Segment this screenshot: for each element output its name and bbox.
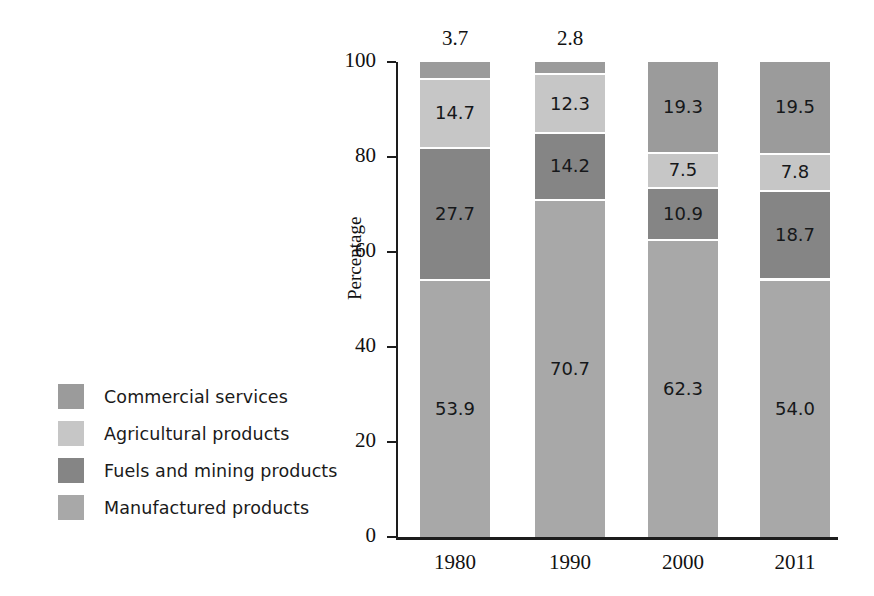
bar-segment: 12.3: [535, 75, 605, 133]
bar-segment-value-label: 19.3: [663, 98, 703, 116]
y-axis-tick: [387, 441, 396, 443]
y-axis-tick-label: 40: [330, 333, 376, 358]
y-axis-tick: [387, 346, 396, 348]
bar-segment-value-label: 14.7: [435, 104, 475, 122]
bar-segment: [420, 62, 490, 80]
x-axis-line: [396, 537, 838, 540]
bar-segment: 19.3: [648, 62, 718, 154]
bar-stack: 53.927.714.7: [420, 62, 490, 537]
legend-item-label: Commercial services: [104, 387, 288, 407]
bar-segment-value-label: 7.8: [781, 163, 810, 181]
bar-stack: 54.018.77.819.5: [760, 62, 830, 537]
bar-segment-value-label: 12.3: [550, 95, 590, 113]
bar-segment-value-label: 54.0: [775, 400, 815, 418]
bar-segment-value-label: 10.9: [663, 205, 703, 223]
legend-item: Commercial services: [58, 378, 358, 415]
bar-segment-value-label: 7.5: [669, 161, 698, 179]
y-axis-tick: [387, 156, 396, 158]
bar-top-value-label: 3.7: [400, 26, 510, 51]
legend-item-label: Agricultural products: [104, 424, 290, 444]
bar-segment: 19.5: [760, 62, 830, 155]
y-axis-tick-label: 20: [330, 428, 376, 453]
bar-segment-value-label: 19.5: [775, 98, 815, 116]
legend-item-label: Manufactured products: [104, 498, 309, 518]
legend-swatch: [58, 458, 84, 483]
bar-segment-value-label: 62.3: [663, 380, 703, 398]
bar-segment-value-label: 18.7: [775, 226, 815, 244]
y-axis-tick-label: 60: [330, 238, 376, 263]
bar-stack: 62.310.97.519.3: [648, 62, 718, 537]
legend-item: Manufactured products: [58, 489, 358, 526]
chart-legend: Commercial servicesAgricultural products…: [58, 378, 358, 526]
bar-top-value-label: 2.8: [515, 26, 625, 51]
legend-item: Fuels and mining products: [58, 452, 358, 489]
bar-segment-value-label: 53.9: [435, 400, 475, 418]
bar-segment: 27.7: [420, 149, 490, 281]
y-axis-tick-label: 0: [330, 523, 376, 548]
y-axis-tick-label: 100: [330, 48, 376, 73]
y-axis-tick: [387, 251, 396, 253]
legend-swatch: [58, 421, 84, 446]
bar-segment: 14.2: [535, 134, 605, 201]
bar-segment-value-label: 27.7: [435, 205, 475, 223]
bar-stack: 70.714.212.3: [535, 62, 605, 537]
bar-segment: 7.5: [648, 154, 718, 190]
bar-segment: 53.9: [420, 281, 490, 537]
bar-segment: 18.7: [760, 192, 830, 281]
bar-segment: 10.9: [648, 189, 718, 241]
bar-segment: 54.0: [760, 281, 830, 538]
y-axis-tick: [387, 61, 396, 63]
bar-segment: [535, 62, 605, 75]
bar-segment: 70.7: [535, 201, 605, 537]
legend-item-label: Fuels and mining products: [104, 461, 338, 481]
bar-segment: 7.8: [760, 155, 830, 192]
y-axis-line: [396, 62, 398, 539]
legend-swatch: [58, 384, 84, 409]
bar-segment: 14.7: [420, 80, 490, 150]
y-axis-tick: [387, 536, 396, 538]
x-axis-tick-label: 2011: [740, 550, 850, 575]
bar-segment-value-label: 70.7: [550, 360, 590, 378]
bar-segment: 62.3: [648, 241, 718, 537]
legend-swatch: [58, 495, 84, 520]
x-axis-tick-label: 2000: [628, 550, 738, 575]
legend-item: Agricultural products: [58, 415, 358, 452]
chart-figure: Commercial servicesAgricultural products…: [0, 0, 874, 596]
bar-segment-value-label: 14.2: [550, 157, 590, 175]
x-axis-tick-label: 1980: [400, 550, 510, 575]
y-axis-tick-label: 80: [330, 143, 376, 168]
x-axis-tick-label: 1990: [515, 550, 625, 575]
